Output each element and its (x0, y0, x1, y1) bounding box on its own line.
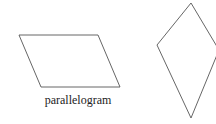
kite-shape (157, 3, 216, 118)
parallelogram-shape (19, 35, 120, 87)
parallelogram-label: parallelogram (40, 93, 116, 108)
